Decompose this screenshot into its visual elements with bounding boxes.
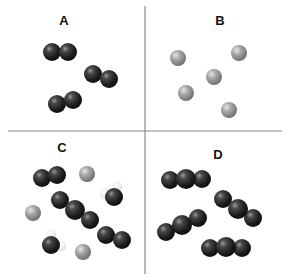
dark-atom bbox=[172, 215, 192, 235]
dark-atom bbox=[105, 188, 123, 206]
single-atom bbox=[79, 166, 95, 182]
gray-atom bbox=[25, 205, 41, 221]
panel-label-b: B bbox=[215, 14, 224, 27]
dark-atom bbox=[228, 199, 248, 219]
molecule bbox=[48, 91, 82, 113]
molecule bbox=[157, 209, 207, 241]
dark-atom bbox=[43, 43, 61, 61]
molecule bbox=[97, 226, 131, 249]
gray-atom bbox=[178, 85, 194, 101]
molecule bbox=[51, 191, 99, 229]
molecule bbox=[214, 190, 262, 227]
dark-atom bbox=[113, 231, 131, 249]
dark-atom bbox=[33, 169, 51, 187]
dark-atom bbox=[81, 211, 99, 229]
dark-atom bbox=[97, 226, 115, 244]
dark-atom bbox=[59, 43, 77, 61]
dark-atom bbox=[84, 65, 102, 83]
gray-atom bbox=[231, 45, 247, 61]
panel-b bbox=[170, 45, 247, 118]
panel-label-d: D bbox=[213, 148, 222, 161]
dark-atom bbox=[100, 70, 118, 88]
single-atom bbox=[170, 50, 186, 66]
molecule bbox=[84, 65, 118, 88]
gray-atom bbox=[79, 166, 95, 182]
single-atom bbox=[206, 69, 222, 85]
panel-d bbox=[157, 169, 262, 257]
dark-atom bbox=[176, 169, 196, 189]
single-atom bbox=[231, 45, 247, 61]
dark-atom bbox=[48, 95, 66, 113]
panel-label-c: C bbox=[57, 141, 66, 154]
dark-atom bbox=[48, 166, 66, 184]
dark-atom bbox=[216, 237, 236, 257]
molecule bbox=[201, 237, 251, 257]
dark-atom bbox=[42, 236, 60, 254]
gray-atom bbox=[170, 50, 186, 66]
molecule bbox=[42, 229, 66, 254]
particle-diagram: A B C D bbox=[0, 0, 288, 278]
molecule bbox=[43, 43, 77, 61]
single-atom bbox=[25, 205, 41, 221]
gray-atom bbox=[75, 244, 91, 260]
diagram-canvas bbox=[0, 0, 288, 278]
molecule bbox=[161, 169, 211, 189]
gray-atom bbox=[206, 69, 222, 85]
panel-c bbox=[25, 166, 131, 260]
panel-label-a: A bbox=[59, 14, 68, 27]
single-atom bbox=[178, 85, 194, 101]
single-atom bbox=[221, 102, 237, 118]
panel-a bbox=[43, 43, 118, 113]
molecule bbox=[100, 181, 123, 206]
molecule bbox=[33, 166, 66, 187]
single-atom bbox=[75, 244, 91, 260]
gray-atom bbox=[221, 102, 237, 118]
dark-atom bbox=[64, 91, 82, 109]
